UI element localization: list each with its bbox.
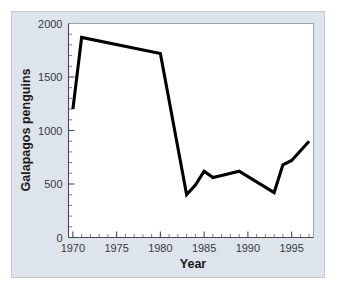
y-tick-label: 500 <box>44 178 62 190</box>
chart-stage: 0500100015002000 19701975198019851990199… <box>0 0 338 297</box>
y-tick-label: 1000 <box>38 125 62 137</box>
y-axis-title: Galapagos penguins <box>19 68 33 191</box>
x-axis-tick-labels: 197019751980198519901995 <box>61 242 304 254</box>
x-tick-label: 1985 <box>192 242 216 254</box>
x-tick-label: 1990 <box>236 242 260 254</box>
y-tick-label: 1500 <box>38 71 62 83</box>
y-tick-label: 2000 <box>38 18 62 30</box>
x-tick-label: 1975 <box>104 242 128 254</box>
y-axis-tick-labels: 0500100015002000 <box>38 18 62 244</box>
x-tick-label: 1980 <box>148 242 172 254</box>
galapagos-penguins-line-chart: 0500100015002000 19701975198019851990199… <box>0 0 338 297</box>
x-axis-title: Year <box>180 257 207 271</box>
plot-area-background <box>69 24 314 238</box>
x-tick-label: 1995 <box>279 242 303 254</box>
x-tick-label: 1970 <box>61 242 85 254</box>
